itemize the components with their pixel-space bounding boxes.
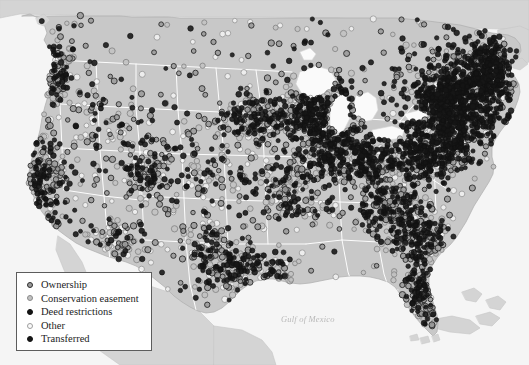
deed-restrictions-marker-icon xyxy=(24,309,36,316)
legend-label-transferred: Transferred xyxy=(41,332,90,346)
map-figure: Gulf of Mexico Ownership Conservation ea… xyxy=(0,0,529,365)
conservation-easement-marker-icon xyxy=(24,295,36,301)
legend-item-transferred[interactable]: Transferred xyxy=(24,332,145,346)
legend-item-other[interactable]: Other xyxy=(24,319,145,333)
legend-label-deed-restrictions: Deed restrictions xyxy=(41,305,112,319)
legend-label-other: Other xyxy=(41,319,65,333)
transferred-marker-icon xyxy=(24,336,36,343)
ownership-marker-icon xyxy=(24,282,36,288)
legend-label-conservation-easement: Conservation easement xyxy=(41,292,139,306)
legend-item-deed-restrictions[interactable]: Deed restrictions xyxy=(24,305,145,319)
map-legend: Ownership Conservation easement Deed res… xyxy=(16,272,152,351)
legend-label-ownership: Ownership xyxy=(41,278,87,292)
legend-item-conservation-easement[interactable]: Conservation easement xyxy=(24,292,145,306)
legend-item-ownership[interactable]: Ownership xyxy=(24,278,145,292)
other-marker-icon xyxy=(24,323,36,329)
gulf-of-mexico-label: Gulf of Mexico xyxy=(281,314,335,324)
